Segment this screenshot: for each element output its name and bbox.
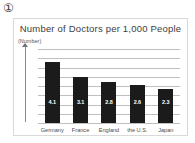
bar[interactable]: 2.8 bbox=[101, 82, 116, 123]
chart-frame: Number of Doctors per 1,000 People (Numb… bbox=[13, 18, 188, 136]
x-axis-tick-label: Germany bbox=[39, 126, 66, 134]
bar-slot: 2.8 bbox=[95, 49, 122, 123]
bar[interactable]: 3.1 bbox=[73, 77, 88, 123]
chart-title: Number of Doctors per 1,000 People bbox=[14, 23, 187, 34]
bar-slot: 4.1 bbox=[39, 49, 66, 123]
x-axis-labels: GermanyFranceEnglandthe U.S.Japan bbox=[38, 126, 180, 134]
x-axis-tick-label: France bbox=[67, 126, 94, 134]
bar-slot: 2.6 bbox=[124, 49, 151, 123]
y-axis-line bbox=[25, 46, 26, 122]
item-number-marker: ① bbox=[3, 2, 14, 14]
x-axis-tick-label: England bbox=[95, 126, 122, 134]
bar-value-label: 2.8 bbox=[105, 99, 112, 106]
bar-value-label: 2.3 bbox=[162, 99, 169, 106]
bar[interactable]: 2.3 bbox=[158, 89, 173, 123]
bar[interactable]: 2.6 bbox=[130, 85, 145, 123]
bar-slot: 2.3 bbox=[152, 49, 179, 123]
x-axis-tick-label: Japan bbox=[152, 126, 179, 134]
bar[interactable]: 4.1 bbox=[45, 62, 60, 123]
bar-value-label: 2.6 bbox=[134, 99, 141, 106]
bar-slot: 3.1 bbox=[67, 49, 94, 123]
x-axis-tick-label: the U.S. bbox=[124, 126, 151, 134]
plot-area: 4.13.12.82.62.3 bbox=[38, 49, 180, 123]
gridline bbox=[38, 123, 180, 124]
bar-value-label: 4.1 bbox=[49, 99, 56, 106]
bar-value-label: 3.1 bbox=[77, 99, 84, 106]
bar-series: 4.13.12.82.62.3 bbox=[38, 49, 180, 123]
